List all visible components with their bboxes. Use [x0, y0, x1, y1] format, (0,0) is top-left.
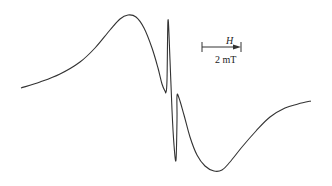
field-label: H	[226, 35, 233, 46]
epr-spectrum-figure	[0, 0, 332, 186]
scale-bar	[202, 42, 241, 52]
arrow-right-icon	[233, 45, 241, 50]
scale-length-label: 2 mT	[215, 54, 236, 65]
spectrum-curve	[21, 15, 311, 172]
